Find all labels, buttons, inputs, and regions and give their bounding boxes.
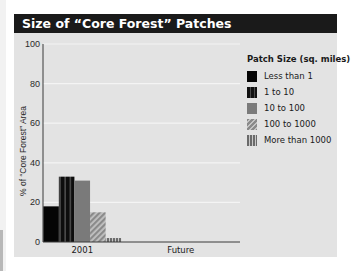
x-tick-label: Future	[167, 245, 194, 255]
legend-title: Patch Size (sq. miles)	[247, 54, 351, 64]
legend-label: More than 1000	[264, 135, 331, 145]
bar-2001-10-to-100	[74, 181, 90, 242]
legend-label: 10 to 100	[264, 103, 305, 113]
bars	[43, 177, 121, 242]
y-tick-label: 20	[30, 197, 40, 207]
legend-swatch	[247, 135, 257, 146]
x-tick-label: 2001	[71, 245, 93, 255]
y-axis-label: % of “Core Forest” Area	[18, 106, 28, 196]
legend-label: 100 to 1000	[264, 119, 316, 129]
legend-swatch	[247, 71, 257, 82]
page-edge-shadow	[0, 230, 3, 271]
legend-swatch	[247, 119, 257, 130]
bar-2001-less-than-1	[43, 206, 59, 242]
bar-2001-more-than-1000	[106, 238, 122, 242]
y-tick-label: 40	[30, 158, 40, 168]
y-tick-label: 0	[35, 237, 40, 247]
legend-item-more-than-1000: More than 1000	[247, 132, 351, 148]
x-tick-labels: 2001Future	[71, 245, 194, 255]
legend-item-less-than-1: Less than 1	[247, 68, 351, 84]
y-tick-label: 100	[25, 39, 40, 49]
y-tick-label: 80	[30, 79, 40, 89]
legend-swatch	[247, 87, 257, 98]
legend: Patch Size (sq. miles) Less than 1 1 to …	[247, 54, 351, 148]
legend-item-10-to-100: 10 to 100	[247, 100, 351, 116]
bar-2001-1-to-10	[59, 177, 75, 242]
bar-2001-100-to-1000	[90, 212, 106, 242]
legend-item-100-to-1000: 100 to 1000	[247, 116, 351, 132]
y-tick-label: 60	[30, 118, 40, 128]
legend-swatch	[247, 103, 257, 114]
legend-label: Less than 1	[264, 71, 313, 81]
legend-item-1-to-10: 1 to 10	[247, 84, 351, 100]
legend-label: 1 to 10	[264, 87, 294, 97]
chart-panel: Size of “Core Forest” Patches 0204060801…	[14, 14, 337, 257]
